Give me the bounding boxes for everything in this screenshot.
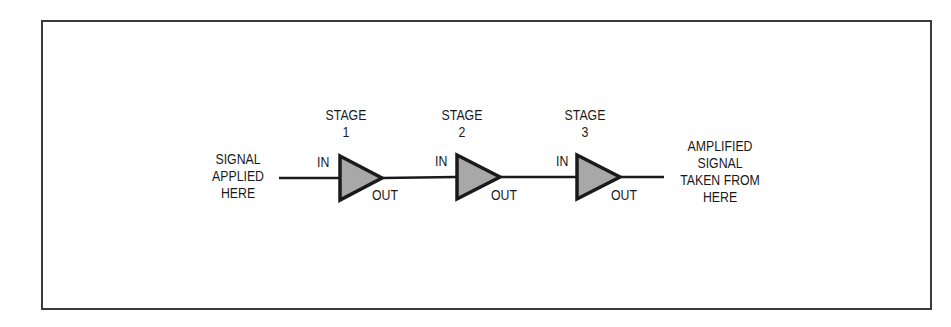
stage-2-title: STAGE 2 <box>437 106 486 140</box>
stage-number: 1 <box>321 123 370 140</box>
input-label-line: APPLIED <box>207 167 269 184</box>
stage-1-title: STAGE 1 <box>321 106 370 140</box>
stage-title-text: STAGE <box>321 106 370 123</box>
output-label-line: AMPLIFIED <box>679 137 761 154</box>
output-label: AMPLIFIED SIGNAL TAKEN FROM HERE <box>679 137 761 205</box>
input-label-line: SIGNAL <box>207 150 269 167</box>
stage-2-in-label: IN <box>435 152 447 169</box>
stage-title-text: STAGE <box>437 106 486 123</box>
input-label-line: HERE <box>207 184 269 201</box>
stage-number: 3 <box>560 123 609 140</box>
stage-3-in-label: IN <box>556 152 568 169</box>
amplifier-chain-diagram <box>0 0 951 327</box>
stage-title-text: STAGE <box>560 106 609 123</box>
stage-3-title: STAGE 3 <box>560 106 609 140</box>
stage-3-out-label: OUT <box>611 186 637 203</box>
output-label-line: HERE <box>679 188 761 205</box>
input-label: SIGNAL APPLIED HERE <box>207 150 269 201</box>
stage-1-out-label: OUT <box>372 186 398 203</box>
output-label-line: TAKEN FROM <box>679 171 761 188</box>
stage-1-in-label: IN <box>317 153 329 170</box>
stage-number: 2 <box>437 123 486 140</box>
wire-stage1-stage2 <box>382 177 456 178</box>
stage-2-out-label: OUT <box>491 186 517 203</box>
output-label-line: SIGNAL <box>679 154 761 171</box>
